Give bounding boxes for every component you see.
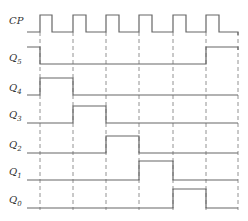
signal-label-q2: Q2: [9, 139, 22, 153]
signal-q0: Q0: [9, 189, 238, 208]
signal-label-q5: Q5: [9, 52, 22, 66]
timing-diagram: CP Q5 Q4 Q3 Q2 Q1 Q0: [0, 0, 248, 221]
cp-waveform: [27, 15, 238, 35]
signal-q4: Q4: [9, 78, 238, 96]
clock-edge-guides: [40, 32, 238, 210]
signal-cp: CP: [9, 15, 238, 35]
signal-label-q3: Q3: [9, 109, 22, 123]
signal-q2: Q2: [9, 136, 238, 153]
signal-q1: Q1: [9, 161, 238, 180]
signal-label-q0: Q0: [9, 194, 22, 208]
signal-q3: Q3: [9, 106, 238, 123]
signal-label-q1: Q1: [9, 166, 22, 180]
q0-waveform: [27, 189, 238, 208]
signal-label-q4: Q4: [9, 82, 22, 96]
signal-q5: Q5: [9, 47, 238, 66]
q1-waveform: [27, 161, 238, 180]
q5-waveform: [27, 47, 238, 64]
q3-waveform: [27, 106, 238, 123]
signal-label-cp: CP: [9, 15, 24, 26]
q4-waveform: [27, 78, 238, 95]
